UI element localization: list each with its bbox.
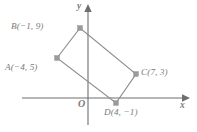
vertex-marker-B bbox=[78, 26, 83, 31]
x-axis-label: x bbox=[180, 101, 185, 111]
vertex-marker-D bbox=[114, 101, 119, 106]
coordinate-plane-figure: y x O B(−1, 9) A(−4, 5) C(7, 3) D(4, −1) bbox=[0, 0, 197, 132]
quadrilateral-group bbox=[55, 26, 139, 106]
point-label-C: C(7, 3) bbox=[141, 68, 168, 77]
point-label-D: D(4, −1) bbox=[104, 108, 138, 117]
point-label-A: A(−4, 5) bbox=[5, 63, 38, 72]
quadrilateral-outline bbox=[57, 28, 136, 103]
vertex-marker-A bbox=[55, 56, 60, 61]
origin-label: O bbox=[78, 99, 85, 109]
y-axis-arrowhead bbox=[84, 4, 91, 12]
point-label-B: B(−1, 9) bbox=[11, 22, 44, 31]
vertex-marker-C bbox=[134, 72, 139, 77]
y-axis-label: y bbox=[77, 2, 81, 12]
